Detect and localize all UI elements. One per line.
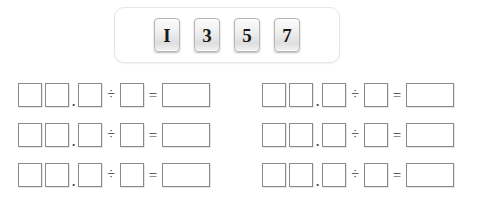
blank-whole-2[interactable] (45, 83, 69, 107)
number-tile-3-label: 3 (202, 26, 212, 45)
blank-decimal-digit[interactable] (322, 123, 346, 147)
equation-worksheet: . ÷ = . ÷ = . ÷ = . ÷ = (0, 76, 481, 202)
equation-row-left-2: . ÷ = (18, 120, 210, 150)
blank-whole-1[interactable] (18, 123, 42, 147)
divide-icon: ÷ (102, 128, 120, 142)
number-tile-1[interactable]: I (154, 18, 180, 52)
blank-answer[interactable] (162, 163, 210, 187)
blank-whole-1[interactable] (18, 163, 42, 187)
decimal-point: . (313, 92, 322, 109)
divide-icon: ÷ (346, 168, 364, 182)
blank-whole-1[interactable] (18, 83, 42, 107)
equals-icon: = (388, 168, 406, 183)
equals-icon: = (144, 88, 162, 103)
divide-icon: ÷ (102, 168, 120, 182)
divide-icon: ÷ (346, 88, 364, 102)
equation-row-right-2: . ÷ = (262, 120, 454, 150)
blank-answer[interactable] (406, 83, 454, 107)
blank-whole-1[interactable] (262, 163, 286, 187)
equation-row-left-1: . ÷ = (18, 80, 210, 110)
blank-divisor[interactable] (364, 163, 388, 187)
blank-whole-1[interactable] (262, 123, 286, 147)
equation-row-right-1: . ÷ = (262, 80, 454, 110)
equals-icon: = (388, 88, 406, 103)
equals-icon: = (388, 128, 406, 143)
equation-row-left-3: . ÷ = (18, 160, 210, 190)
equation-row-right-3: . ÷ = (262, 160, 454, 190)
decimal-point: . (69, 172, 78, 189)
decimal-point: . (69, 132, 78, 149)
blank-decimal-digit[interactable] (322, 83, 346, 107)
blank-decimal-digit[interactable] (78, 83, 102, 107)
blank-decimal-digit[interactable] (78, 123, 102, 147)
blank-whole-2[interactable] (289, 83, 313, 107)
number-tile-1-label: I (163, 26, 170, 45)
blank-divisor[interactable] (364, 123, 388, 147)
blank-whole-2[interactable] (45, 123, 69, 147)
blank-divisor[interactable] (120, 123, 144, 147)
blank-answer[interactable] (162, 123, 210, 147)
equals-icon: = (144, 168, 162, 183)
number-tile-7[interactable]: 7 (274, 18, 300, 52)
blank-decimal-digit[interactable] (78, 163, 102, 187)
blank-answer[interactable] (406, 123, 454, 147)
blank-answer[interactable] (162, 83, 210, 107)
number-tile-5[interactable]: 5 (234, 18, 260, 52)
number-tile-7-label: 7 (282, 26, 292, 45)
blank-answer[interactable] (406, 163, 454, 187)
blank-decimal-digit[interactable] (322, 163, 346, 187)
decimal-point: . (313, 132, 322, 149)
blank-divisor[interactable] (364, 83, 388, 107)
blank-divisor[interactable] (120, 163, 144, 187)
number-tile-5-label: 5 (242, 26, 252, 45)
equals-icon: = (144, 128, 162, 143)
number-tile-tray: I 3 5 7 (114, 7, 340, 63)
divide-icon: ÷ (346, 128, 364, 142)
decimal-point: . (69, 92, 78, 109)
blank-whole-2[interactable] (289, 163, 313, 187)
number-tile-3[interactable]: 3 (194, 18, 220, 52)
divide-icon: ÷ (102, 88, 120, 102)
blank-whole-2[interactable] (45, 163, 69, 187)
blank-whole-1[interactable] (262, 83, 286, 107)
blank-divisor[interactable] (120, 83, 144, 107)
blank-whole-2[interactable] (289, 123, 313, 147)
decimal-point: . (313, 172, 322, 189)
